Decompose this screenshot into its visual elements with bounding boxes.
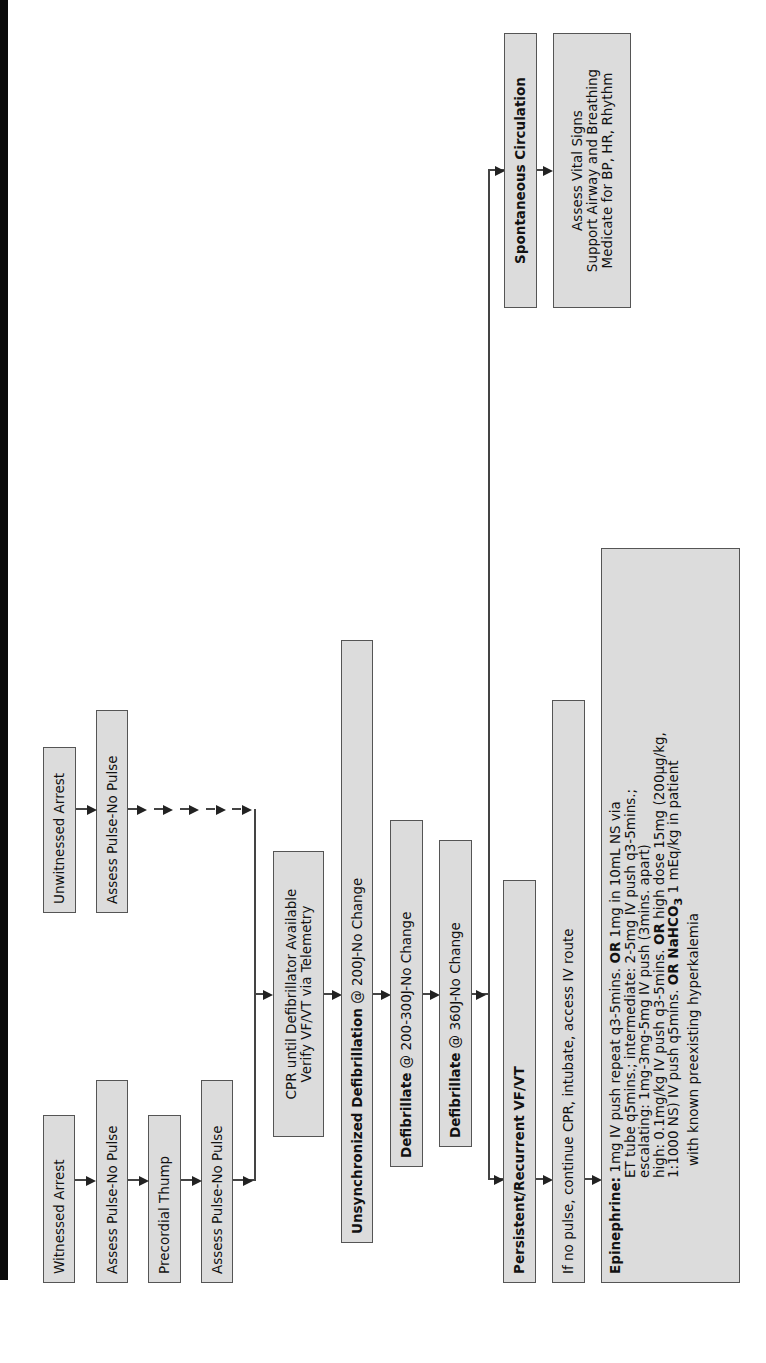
assess-pulse-box-2: Assess Pulse-No Pulse [201,1080,233,1283]
arrow-icon [137,805,147,815]
vital-signs-box: Assess Vital Signs Support Airway and Br… [553,33,631,308]
arrow-icon [192,1176,202,1186]
vitals-line-3: Medicate for BP, HR, Rhythm [600,73,615,269]
assess-pulse-label-1: Assess Pulse-No Pulse [105,1125,120,1274]
spontaneous-circulation-box: Spontaneous Circulation [504,33,537,308]
no-pulse-label: If no pulse, continue CPR, intubate, acc… [561,928,576,1274]
arrow-icon [543,166,553,176]
epi-text: 1:1000 NS) IV push q5mins. [665,985,681,1178]
unwitnessed-arrest-label: Unwitnessed Arrest [52,773,67,904]
epi-sub: 3 [672,898,685,906]
spontaneous-label: Spontaneous Circulation [513,77,528,264]
arrow-icon [87,805,97,815]
epi-line-3: escalating: 1mg-3mg-5mg IV push (3mins. … [637,844,652,1274]
assess-pulse-box-1: Assess Pulse-No Pulse [96,1080,128,1283]
precordial-thump-box: Precordial Thump [148,1115,181,1283]
epi-line-2: ET tube q5mins.; intermediate: 2-5mg IV … [623,789,638,1274]
vitals-line-1: Assess Vital Signs [570,110,585,231]
defib2-text: Defibrillate @ 200-300J-No Change [399,912,414,1159]
epi-line-6: with known preexisting hyperkalemia [686,913,701,1274]
assess-pulse-box-3: Assess Pulse-No Pulse [96,710,128,913]
witnessed-arrest-box: Witnessed Arrest [43,1115,75,1283]
arrow-icon [86,1176,96,1186]
defibrillate-360-box: Defibrillate @ 360J-No Change [439,840,472,1147]
arrow-icon [216,805,226,815]
epi-text: with known preexisting hyperkalemia [685,913,701,1166]
epi-line-4: high: 0.1mg/kg IV push q3-5mins. OR high… [652,732,667,1274]
defib2-suffix: @ 200-300J-No Change [398,912,414,1073]
arrow-icon [242,805,252,815]
arrow-icon [139,1176,149,1186]
assess-pulse-label-2: Assess Pulse-No Pulse [210,1125,225,1274]
arrow-icon [189,805,199,815]
epi-line-5: 1:1000 NS) IV push q5mins. OR NaHCO3 1 m… [666,760,686,1274]
arrow-icon [163,805,173,815]
epinephrine-box: Epinephrine: 1mg IV push repeat q3-5mins… [601,548,740,1283]
cpr-line-1: CPR until Defibrillator Available [284,889,299,1100]
defib2-bold: Defibrillate [398,1073,414,1158]
unsync-bold: Defibrillation [349,1008,365,1108]
defib3-text: Defibrillate @ 360J-No Change [448,922,463,1138]
arrow-icon [476,990,486,1000]
flowchart-canvas: Witnessed Arrest Assess Pulse-No Pulse P… [0,0,766,1363]
persistent-label: Persistent/Recurrent VF/VT [512,1066,527,1274]
no-pulse-box: If no pulse, continue CPR, intubate, acc… [552,700,585,1283]
epi-or: OR NaHCO [665,906,681,986]
unsync-prefix: Unsynchronized [349,1108,365,1234]
defibrillate-200-300-box: Defibrillate @ 200-300J-No Change [390,820,423,1167]
cpr-line-2: Verify VF/VT via Telemetry [299,906,314,1083]
defib3-suffix: @ 360J-No Change [447,922,463,1053]
assess-pulse-label-3: Assess Pulse-No Pulse [105,755,120,904]
precordial-thump-label: Precordial Thump [157,1156,172,1274]
epi-line-1: Epinephrine: 1mg IV push repeat q3-5mins… [608,801,623,1274]
arrow-icon [263,990,273,1000]
defib3-bold: Defibrillate [447,1053,463,1138]
unwitnessed-arrest-box: Unwitnessed Arrest [43,747,76,913]
epi-text: 1 mEq/kg in patient [665,760,681,897]
branch-connector [488,170,490,1180]
arrow-icon [243,1176,253,1186]
unsync-suffix: @ 200J-No Change [349,878,365,1009]
merge-connector [254,809,256,1181]
cpr-box: CPR until Defibrillator Available Verify… [273,851,324,1137]
vitals-line-2: Support Airway and Breathing [585,69,600,272]
unsync-text: Unsynchronized Defibrillation @ 200J-No … [350,878,365,1234]
unsynchronized-defibrillation-box: Unsynchronized Defibrillation @ 200J-No … [341,640,373,1243]
persistent-vf-vt-box: Persistent/Recurrent VF/VT [503,880,536,1283]
epi-label: Epinephrine: [607,1177,623,1274]
witnessed-arrest-label: Witnessed Arrest [52,1159,67,1274]
